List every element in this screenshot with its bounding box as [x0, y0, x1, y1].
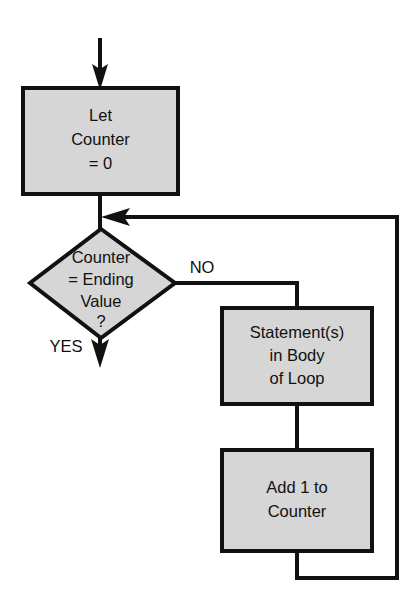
- node-loop-body[interactable]: Statement(s) in Body of Loop: [222, 308, 372, 404]
- connector-yes-branch: [91, 338, 109, 368]
- node-let-counter-line-3: = 0: [89, 154, 112, 172]
- node-decision-line-2: = Ending: [68, 270, 134, 288]
- edge-label-no: NO: [190, 258, 215, 276]
- node-let-counter-line-2: Counter: [71, 130, 130, 148]
- entry-arrow: [92, 38, 108, 90]
- edge-label-yes: YES: [49, 337, 82, 355]
- node-loop-body-line-3: of Loop: [269, 369, 324, 387]
- node-decision-line-1: Counter: [72, 248, 131, 266]
- node-increment-counter-line-1: Add 1 to: [266, 478, 327, 496]
- node-let-counter-line-1: Let: [89, 106, 112, 124]
- connector-no-branch: [175, 283, 297, 308]
- node-decision-line-3: Value: [81, 292, 122, 310]
- node-loop-body-line-2: in Body: [269, 346, 325, 364]
- node-decision-counter-equals-ending-value[interactable]: Counter = Ending Value ?: [30, 229, 175, 338]
- node-increment-counter[interactable]: Add 1 to Counter: [222, 450, 372, 551]
- node-increment-counter-line-2: Counter: [268, 502, 327, 520]
- flowchart-canvas: Let Counter = 0 Counter = Ending Value ?…: [0, 0, 417, 605]
- flowchart-diagram: Let Counter = 0 Counter = Ending Value ?…: [0, 0, 417, 605]
- node-decision-line-4: ?: [96, 312, 105, 330]
- node-loop-body-line-1: Statement(s): [250, 323, 344, 341]
- node-let-counter[interactable]: Let Counter = 0: [23, 88, 178, 194]
